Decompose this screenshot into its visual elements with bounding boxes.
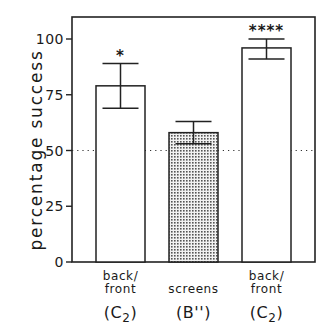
y-axis-label: percentage success bbox=[26, 49, 46, 250]
category-code: (B'') bbox=[176, 303, 211, 322]
y-tick-label: 0 bbox=[55, 254, 64, 270]
significance-marker: * bbox=[116, 47, 125, 65]
category-label-1: back/front(C2) bbox=[103, 269, 139, 325]
x-axis-category-labels: back/front(C2)screens(B'')back/front(C2) bbox=[103, 269, 285, 325]
category-line2: front bbox=[251, 282, 283, 296]
y-tick-label: 25 bbox=[45, 198, 64, 214]
category-line2: screens bbox=[168, 282, 218, 296]
category-label-2: screens(B'') bbox=[168, 282, 218, 322]
category-line1: back/ bbox=[103, 269, 139, 283]
bars: ***** bbox=[96, 22, 291, 262]
bar-group-3: **** bbox=[242, 22, 291, 262]
bar bbox=[169, 133, 218, 262]
category-label-3: back/front(C2) bbox=[249, 269, 285, 325]
bar bbox=[96, 86, 145, 262]
bar bbox=[242, 48, 291, 262]
category-line2: front bbox=[105, 282, 137, 296]
bar-group-1: * bbox=[96, 47, 145, 262]
bar-group-2 bbox=[169, 122, 218, 262]
category-line1: back/ bbox=[249, 269, 285, 283]
significance-marker: **** bbox=[249, 22, 284, 40]
y-tick-label: 50 bbox=[45, 143, 64, 159]
category-code: (C2) bbox=[250, 303, 283, 325]
category-code: (C2) bbox=[104, 303, 137, 325]
y-tick-label: 100 bbox=[36, 31, 64, 47]
bar-chart: ***** 0255075100 back/front(C2)screens(B… bbox=[0, 0, 334, 334]
y-tick-label: 75 bbox=[45, 87, 64, 103]
